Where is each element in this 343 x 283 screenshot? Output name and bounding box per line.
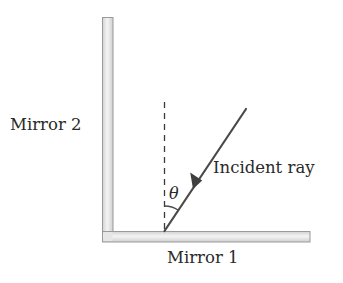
mirror-2 — [103, 18, 114, 242]
incident-ray-label: Incident ray — [213, 160, 315, 177]
theta-angle-label: θ — [169, 186, 179, 202]
diagram-canvas — [0, 0, 343, 283]
angle-arc — [165, 206, 179, 210]
mirror-1-label: Mirror 1 — [167, 250, 239, 267]
mirror-2-label: Mirror 2 — [10, 117, 82, 134]
arrowhead-icon — [190, 173, 202, 189]
mirror-diagram: Mirror 2 Incident ray Mirror 1 θ — [0, 0, 343, 283]
mirror-1 — [103, 232, 311, 243]
